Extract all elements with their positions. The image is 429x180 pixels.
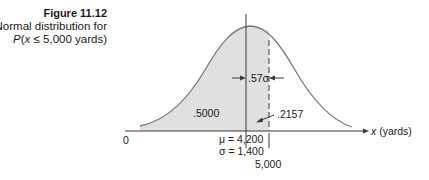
normal-distribution-chart: .57σ .2157 .5000 0 x (yards) μ = 4,200 σ… (0, 0, 429, 180)
area-right-label: .2157 (277, 108, 303, 120)
sigma-label: σ = 1,400 (219, 145, 264, 157)
arrow-left-icon (269, 76, 275, 81)
area-left-label: .5000 (193, 107, 219, 119)
z-distance-label: .57σ (248, 72, 270, 84)
x-axis-label: x (yards) (370, 125, 412, 137)
origin-label: 0 (123, 134, 129, 146)
x-value-label: 5,000 (255, 158, 281, 170)
x-axis-arrow-icon (363, 129, 369, 134)
mean-label: μ = 4,200 (219, 133, 263, 145)
